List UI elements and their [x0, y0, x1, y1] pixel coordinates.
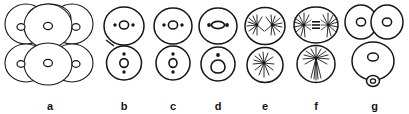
panel-f-drawing: [290, 0, 342, 96]
metaphase-plate: [312, 21, 320, 29]
panel-label-f: f: [290, 100, 342, 112]
panel-label-g: g: [342, 100, 407, 112]
panel-label-d: d: [196, 100, 240, 112]
panel-label-a: a: [2, 100, 98, 112]
panel-c: c: [150, 0, 196, 114]
panel-label-b: b: [98, 100, 150, 112]
panel-g: g: [342, 0, 407, 114]
panel-b: b: [98, 0, 150, 114]
panel-a: a: [2, 0, 98, 114]
panel-c-drawing: [150, 0, 196, 96]
panel-e: e: [240, 0, 290, 114]
panel-label-e: e: [240, 100, 290, 112]
panel-d: d: [196, 0, 240, 114]
panel-g-drawing: [342, 0, 407, 96]
panel-f: f: [290, 0, 342, 114]
panel-b-drawing: [98, 0, 150, 96]
panel-a-drawing: [2, 0, 98, 96]
panel-d-drawing: [196, 0, 240, 96]
figure-root: a b c: [0, 0, 409, 114]
panel-e-drawing: [240, 0, 290, 96]
panel-label-c: c: [150, 100, 196, 112]
